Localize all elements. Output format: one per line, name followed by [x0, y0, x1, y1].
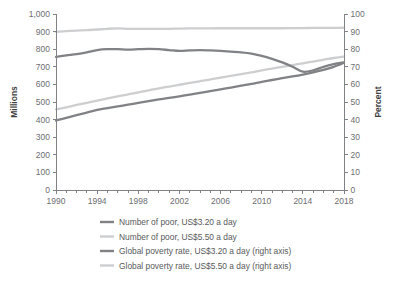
y2-axis-tick-label: 10	[351, 167, 361, 177]
x-axis-tick-label: 2014	[293, 196, 312, 206]
y-axis-tick-label: 200	[36, 150, 50, 160]
x-axis-tick-label: 2010	[252, 196, 271, 206]
x-axis-tick-label: 2006	[211, 196, 230, 206]
x-axis-tick-label: 1998	[129, 196, 148, 206]
y2-axis-tick-label: 90	[351, 27, 361, 37]
y-axis-tick-label: 600	[36, 79, 50, 89]
y-axis-tick-label: 400	[36, 115, 50, 125]
y2-axis-tick-label: 30	[351, 132, 361, 142]
left-axis-title: Millions	[9, 86, 19, 118]
chart-legend: Number of poor, US$3.20 a dayNumber of p…	[100, 217, 291, 271]
right-axis-title: Percent	[373, 86, 383, 117]
x-axis-tick-label: 2018	[335, 196, 354, 206]
y2-axis-tick-label: 80	[351, 44, 361, 54]
y2-axis-tick-label: 0	[351, 185, 356, 195]
legend-label-1: Number of poor, US$5.50 a day	[119, 232, 238, 242]
legend-label-3: Global poverty rate, US$5.50 a day (righ…	[119, 261, 291, 271]
y2-axis-tick-label: 100	[351, 9, 365, 19]
chart-canvas: 01002003004005006007008009001,0000102030…	[0, 0, 393, 285]
legend-label-0: Number of poor, US$3.20 a day	[119, 217, 238, 227]
y-axis-tick-label: 0	[45, 185, 50, 195]
legend-label-2: Global poverty rate, US$3.20 a day (righ…	[119, 246, 291, 256]
x-axis-tick-label: 2002	[170, 196, 189, 206]
y2-axis-tick-label: 40	[351, 115, 361, 125]
y-axis-tick-label: 900	[36, 27, 50, 37]
poverty-line-chart: 01002003004005006007008009001,0000102030…	[0, 0, 393, 285]
y-axis-tick-label: 800	[36, 44, 50, 54]
y-axis-tick-label: 500	[36, 97, 50, 107]
y2-axis-tick-label: 50	[351, 97, 361, 107]
series-line-0	[56, 49, 344, 72]
y-axis-tick-label: 700	[36, 62, 50, 72]
y2-axis-tick-label: 20	[351, 150, 361, 160]
series-line-3	[56, 57, 344, 110]
x-axis-tick-label: 1994	[88, 196, 107, 206]
y-axis-tick-label: 1,000	[29, 9, 51, 19]
x-axis-tick-label: 1990	[47, 196, 66, 206]
y2-axis-tick-label: 70	[351, 62, 361, 72]
series-line-1	[56, 28, 344, 32]
y-axis-tick-label: 100	[36, 167, 50, 177]
plot-area	[56, 28, 344, 121]
y-axis-tick-label: 300	[36, 132, 50, 142]
y2-axis-tick-label: 60	[351, 79, 361, 89]
